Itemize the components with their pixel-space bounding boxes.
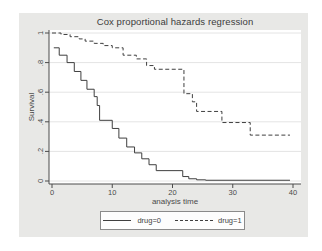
x-axis-label: analysis time: [152, 197, 198, 206]
y-tick-label-.4: .4: [36, 119, 45, 125]
legend-dashed-line-sample: [175, 220, 213, 221]
y-tick-label-.6: .6: [36, 89, 45, 95]
legend-label-drug0: drug=0: [137, 216, 161, 225]
screenshot-page: Cox proportional hazards regression Surv…: [0, 0, 322, 251]
x-tick-label-30: 30: [229, 188, 237, 197]
y-tick-label-0: 0: [36, 179, 45, 183]
y-tick-label-.2: .2: [36, 148, 45, 154]
y-tick-label-.8: .8: [36, 59, 45, 65]
x-tick-label-0: 0: [50, 188, 54, 197]
x-tick-label-40: 40: [289, 188, 297, 197]
x-tick-label-20: 20: [168, 188, 176, 197]
chart-title: Cox proportional hazards regression: [97, 16, 254, 27]
y-tick-label-1: 1: [36, 31, 45, 35]
legend-box: drug=0 drug=1: [100, 211, 245, 230]
stata-graph-window: Cox proportional hazards regression Surv…: [19, 13, 308, 237]
legend-solid-line-sample: [103, 220, 131, 221]
y-axis-label: Survival: [27, 93, 36, 121]
legend-label-drug1: drug=1: [218, 216, 242, 225]
x-tick-label-10: 10: [108, 188, 116, 197]
plot-area: [49, 30, 301, 184]
